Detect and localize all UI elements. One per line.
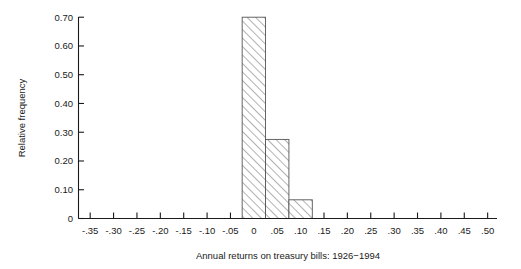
x-tick-label-17: .50 <box>481 225 494 236</box>
y-tick-label-4: 0.40 <box>55 98 74 109</box>
x-tick-label-11: .20 <box>341 225 354 236</box>
x-tick-label-7: 0 <box>251 225 256 236</box>
x-axis-title: Annual returns on treasury bills: 1926−1… <box>196 250 380 261</box>
x-tick-label-15: .40 <box>434 225 447 236</box>
y-tick-label-2: 0.20 <box>55 155 74 166</box>
bar-bin-2 <box>289 200 312 219</box>
y-axis-title: Relative frequency <box>16 78 27 157</box>
x-tick-label-12: .25 <box>364 225 377 236</box>
x-tick-label-0: -.35 <box>82 225 98 236</box>
x-tick-label-1: -.30 <box>105 225 121 236</box>
y-tick-label-7: 0.70 <box>55 12 74 23</box>
x-tick-label-16: .45 <box>458 225 471 236</box>
chart-canvas: 0 0.10 0.20 0.30 0.40 0.50 <box>0 0 521 269</box>
x-tick-label-10: .15 <box>317 225 330 236</box>
x-tick-label-6: -.05 <box>222 225 238 236</box>
x-tick-label-8: .05 <box>271 225 284 236</box>
x-tick-label-9: .10 <box>294 225 307 236</box>
y-tick-label-6: 0.60 <box>55 40 74 51</box>
y-tick-label-0: 0 <box>68 213 73 224</box>
x-tick-label-13: .30 <box>388 225 401 236</box>
y-tick-label-3: 0.30 <box>55 127 74 138</box>
x-tick-label-5: -.10 <box>199 225 215 236</box>
x-tick-label-3: -.20 <box>152 225 168 236</box>
bar-bin-1 <box>266 139 289 218</box>
x-tick-label-2: -.25 <box>129 225 145 236</box>
x-tick-label-14: .35 <box>411 225 424 236</box>
x-tick-label-4: -.15 <box>176 225 192 236</box>
y-tick-label-5: 0.50 <box>55 69 74 80</box>
bar-bin-0 <box>242 17 265 218</box>
histogram-figure: 0 0.10 0.20 0.30 0.40 0.50 <box>0 0 521 269</box>
y-tick-label-1: 0.10 <box>55 184 74 195</box>
